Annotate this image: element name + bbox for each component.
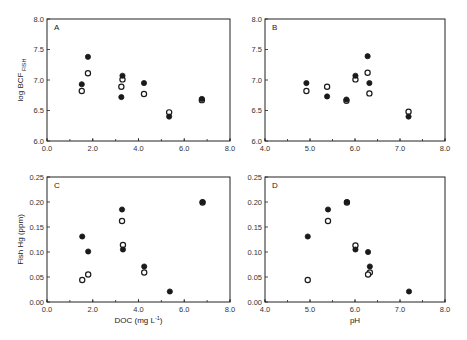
y-tick-label: 0.10 — [29, 248, 44, 257]
open-data-point — [141, 91, 146, 96]
filled-data-point — [367, 264, 372, 269]
x-tick-label: 2.0 — [88, 305, 98, 314]
y-tick-label: 0.15 — [29, 223, 44, 232]
x-tick-label: 0.0 — [42, 144, 52, 153]
figure-four-panel-scatter: A6.06.57.07.58.00.02.04.06.08.0log BCF F… — [0, 0, 467, 340]
y-tick-label: 0.20 — [247, 198, 262, 207]
y-tick-label: 0.25 — [247, 173, 262, 182]
y-tick-label: 0.10 — [247, 248, 262, 257]
open-data-point — [119, 218, 124, 223]
x-tick-label: 4.0 — [260, 305, 270, 314]
open-data-point — [325, 218, 330, 223]
x-axis-title: pH — [350, 316, 360, 325]
open-data-point — [119, 84, 124, 89]
panel-d: D0.000.050.100.150.200.254.05.06.07.08.0… — [247, 173, 450, 326]
filled-data-point — [353, 247, 358, 252]
filled-data-point — [406, 114, 411, 119]
open-data-point — [142, 270, 147, 275]
filled-data-point — [199, 96, 204, 101]
filled-data-point — [167, 114, 172, 119]
x-tick-label: 8.0 — [225, 144, 235, 153]
panel-label: A — [54, 23, 60, 32]
y-tick-label: 0.25 — [29, 173, 44, 182]
filled-data-point — [365, 54, 370, 59]
filled-data-point — [86, 249, 91, 254]
x-tick-label: 4.0 — [133, 305, 143, 314]
y-tick-label: 7.0 — [252, 76, 262, 85]
x-tick-label: 7.0 — [395, 144, 405, 153]
x-tick-label: 6.0 — [350, 144, 360, 153]
x-tick-label: 6.0 — [350, 305, 360, 314]
panel-label: D — [272, 181, 278, 190]
open-data-point — [305, 277, 310, 282]
filled-data-point — [325, 207, 330, 212]
open-data-point — [325, 84, 330, 89]
plot-frame — [265, 177, 445, 302]
open-data-point — [86, 272, 91, 277]
filled-data-point — [119, 207, 124, 212]
x-tick-label: 8.0 — [440, 305, 450, 314]
open-data-point — [406, 109, 411, 114]
y-axis-title: log BCF FISH — [16, 58, 27, 101]
panel-label: C — [54, 181, 60, 190]
x-tick-label: 4.0 — [133, 144, 143, 153]
plot-frame — [47, 177, 230, 302]
x-tick-label: 4.0 — [260, 144, 270, 153]
filled-data-point — [79, 82, 84, 87]
open-data-point — [79, 88, 84, 93]
y-tick-label: 7.5 — [34, 45, 44, 54]
filled-data-point — [365, 249, 370, 254]
filled-data-point — [119, 94, 124, 99]
y-tick-label: 8.0 — [252, 15, 262, 24]
y-tick-label: 0.05 — [29, 273, 44, 282]
open-data-point — [85, 71, 90, 76]
filled-data-point — [344, 97, 349, 102]
x-tick-label: 7.0 — [395, 305, 405, 314]
filled-data-point — [141, 80, 146, 85]
filled-data-point — [80, 234, 85, 239]
filled-data-point — [120, 73, 125, 78]
filled-data-point — [325, 94, 330, 99]
open-data-point — [365, 70, 370, 75]
plot-frame — [47, 19, 230, 141]
y-tick-label: 7.0 — [34, 76, 44, 85]
x-tick-label: 8.0 — [225, 305, 235, 314]
y-tick-label: 0.05 — [247, 273, 262, 282]
open-data-point — [304, 88, 309, 93]
open-data-point — [80, 277, 85, 282]
filled-data-point — [304, 80, 309, 85]
y-tick-label: 0.20 — [29, 198, 44, 207]
x-tick-label: 8.0 — [440, 144, 450, 153]
open-data-point — [367, 91, 372, 96]
y-axis-title-subscript: FISH — [21, 58, 27, 72]
filled-data-point — [305, 234, 310, 239]
x-tick-label: 2.0 — [88, 144, 98, 153]
panel-c: C0.000.050.100.150.200.250.02.04.06.08.0… — [16, 173, 235, 326]
x-tick-label: 6.0 — [179, 305, 189, 314]
filled-data-point — [200, 199, 205, 204]
filled-data-point — [353, 73, 358, 78]
filled-data-point — [344, 199, 349, 204]
x-tick-label: 5.0 — [305, 144, 315, 153]
y-axis-title: Fish Hg (ppm) — [16, 214, 25, 265]
x-tick-label: 5.0 — [305, 305, 315, 314]
x-tick-label: 0.0 — [42, 305, 52, 314]
filled-data-point — [120, 247, 125, 252]
filled-data-point — [406, 289, 411, 294]
panel-a: A6.06.57.07.58.00.02.04.06.08.0log BCF F… — [16, 15, 235, 154]
x-tick-label: 6.0 — [179, 144, 189, 153]
open-data-point — [365, 272, 370, 277]
y-tick-label: 7.5 — [252, 45, 262, 54]
y-tick-label: 8.0 — [34, 15, 44, 24]
filled-data-point — [142, 264, 147, 269]
y-tick-label: 0.15 — [247, 223, 262, 232]
x-axis-title-end: ) — [160, 316, 163, 325]
y-tick-label: 6.5 — [252, 106, 262, 115]
y-tick-label: 6.5 — [34, 106, 44, 115]
panel-b: B6.06.57.07.58.04.05.06.07.08.0 — [252, 15, 451, 154]
panel-label: B — [272, 23, 277, 32]
filled-data-point — [85, 54, 90, 59]
x-axis-title: DOC (mg L-1) — [114, 315, 162, 325]
filled-data-point — [167, 289, 172, 294]
filled-data-point — [367, 80, 372, 85]
